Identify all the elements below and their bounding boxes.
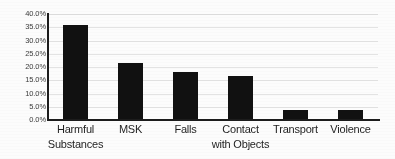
gridline (48, 14, 378, 15)
gridline (48, 54, 378, 55)
x-axis-line (47, 119, 380, 121)
gridline (48, 94, 378, 95)
y-axis-line (47, 13, 49, 121)
gridline (48, 80, 378, 81)
bar (228, 76, 253, 120)
y-axis-tick-label: 10.0% (2, 90, 46, 98)
gridline (48, 107, 378, 108)
gridline (48, 41, 378, 42)
y-axis-tick-label: 5.0% (2, 103, 46, 111)
y-axis-tick-label: 20.0% (2, 63, 46, 71)
plot-area (48, 14, 378, 120)
bar-chart: 0.0%5.0%10.0%15.0%20.0%25.0%30.0%35.0%40… (0, 0, 395, 159)
y-axis-tick-label: 0.0% (2, 116, 46, 124)
bar (173, 72, 198, 120)
y-axis-tick-label: 40.0% (2, 10, 46, 18)
x-axis-category-label: Violence (317, 122, 384, 137)
y-axis-tick-labels: 0.0%5.0%10.0%15.0%20.0%25.0%30.0%35.0%40… (0, 0, 46, 159)
bar (118, 63, 143, 121)
gridline (48, 27, 378, 28)
y-axis-tick-label: 35.0% (2, 23, 46, 31)
bar (63, 25, 88, 120)
x-axis-category-labels: Harmful SubstancesMSKFallsContact with O… (48, 122, 388, 159)
y-axis-tick-label: 25.0% (2, 50, 46, 58)
gridline (48, 67, 378, 68)
y-axis-tick-label: 30.0% (2, 37, 46, 45)
y-axis-tick-label: 15.0% (2, 76, 46, 84)
